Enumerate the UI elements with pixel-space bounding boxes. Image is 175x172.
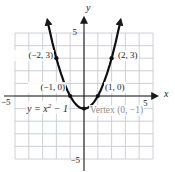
equation-rest: − 1 (51, 103, 68, 114)
point-dot (54, 56, 58, 60)
equation-equals: = (31, 103, 43, 114)
plot-canvas (0, 0, 175, 172)
point-dot (68, 94, 72, 98)
point-label-1-0: (1, 0) (104, 82, 126, 93)
point-dot (82, 107, 86, 111)
point-label-neg2-3: (−2, 3) (11, 50, 54, 61)
tick-y-neg5: −5 (62, 155, 80, 166)
point-label-2-3: (2, 3) (117, 50, 139, 61)
tick-x-neg5: −5 (1, 97, 11, 108)
axes (4, 19, 156, 171)
x-axis-label: x (164, 88, 168, 99)
point-dot (110, 56, 114, 60)
y-axis-label: y (86, 2, 90, 13)
tick-y-5: 5 (63, 27, 77, 38)
point-dot (96, 94, 100, 98)
parabola-graph-figure: y x 5 −5 −5 5 (−2, 3) (2, 3) (−1, 0) (1,… (0, 0, 175, 172)
vertex-label: Vertex (0, −1) (89, 105, 144, 116)
point-label-neg1-0: (−1, 0) (28, 82, 66, 93)
equation-label: y = x2 − 1 (26, 101, 69, 114)
